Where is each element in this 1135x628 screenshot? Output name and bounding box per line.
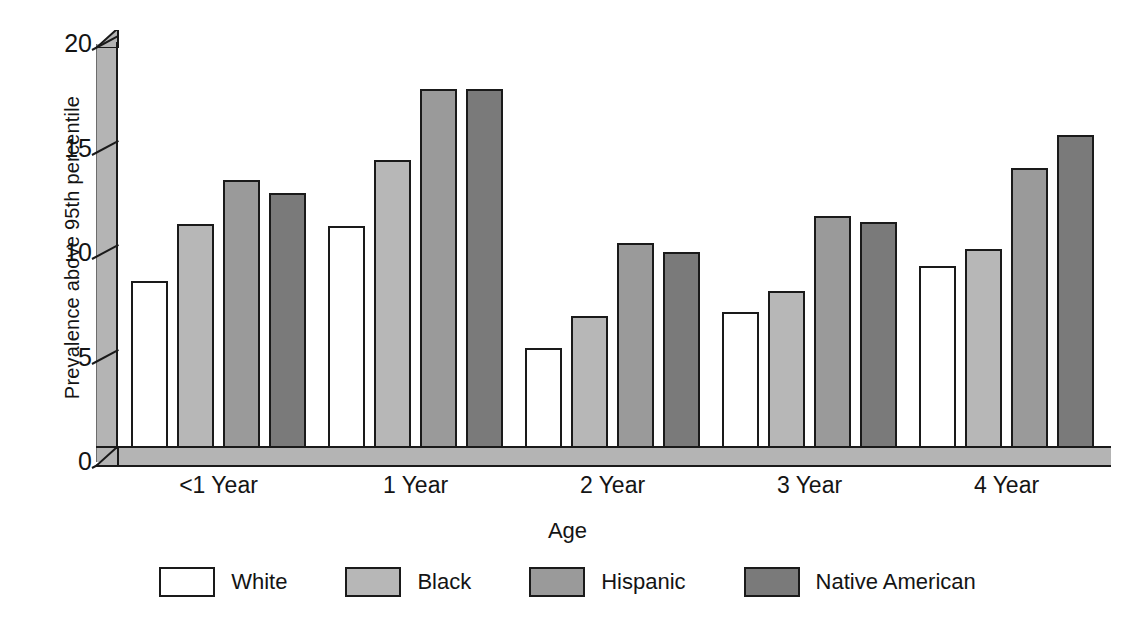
legend-label-hispanic: Hispanic <box>601 569 685 595</box>
y-axis-tick-10: 10 <box>46 240 92 265</box>
legend-item-black[interactable]: Black <box>345 567 471 597</box>
bar-black-4year <box>965 249 1002 448</box>
bar-native-american-4year <box>1057 135 1094 449</box>
bar-black-3year <box>768 291 805 448</box>
x-axis-title: Age <box>0 518 1135 544</box>
legend-label-white: White <box>231 569 287 595</box>
bar-white-1year <box>328 226 365 448</box>
bar-black-1year <box>374 160 411 448</box>
bar-hispanic-3year <box>814 216 851 448</box>
floor-bottom-edge <box>116 465 1111 467</box>
floor-corner-shape <box>96 446 120 468</box>
floor-face <box>116 448 1111 466</box>
x-axis-tick-4year: 4 Year <box>908 472 1105 499</box>
legend-swatch-hispanic <box>529 567 585 597</box>
legend-swatch-black <box>345 567 401 597</box>
bar-chart-figure: Prevalence above 95th percentile 0510152… <box>0 0 1135 628</box>
bar-hispanic-1year <box>420 89 457 448</box>
legend-item-hispanic[interactable]: Hispanic <box>529 567 685 597</box>
chart-legend: WhiteBlackHispanicNative American <box>0 560 1135 604</box>
bar-hispanic-4year <box>1011 168 1048 448</box>
legend-item-white[interactable]: White <box>159 567 287 597</box>
bar-hispanic-1year <box>223 180 260 448</box>
y-axis-tick-0: 0 <box>46 449 92 474</box>
legend-swatch-white <box>159 567 215 597</box>
legend-item-native-american[interactable]: Native American <box>744 567 976 597</box>
bar-native-american-1year <box>466 89 503 448</box>
y-axis-tick-20: 20 <box>46 31 92 56</box>
x-axis-tick-3year: 3 Year <box>711 472 908 499</box>
bar-white-1year <box>131 281 168 448</box>
legend-swatch-native-american <box>744 567 800 597</box>
legend-label-black: Black <box>417 569 471 595</box>
bar-black-1year <box>177 224 214 448</box>
bar-white-4year <box>919 266 956 448</box>
bar-white-3year <box>722 312 759 448</box>
bar-black-2year <box>571 316 608 448</box>
bar-native-american-3year <box>860 222 897 448</box>
plot-area <box>96 30 1111 466</box>
y-axis-tick-5: 5 <box>46 345 92 370</box>
x-axis-tick-labels: <1 Year1 Year2 Year3 Year4 Year <box>96 472 1111 506</box>
bar-hispanic-2year <box>617 243 654 448</box>
y-axis-wall-left-edge <box>96 44 97 462</box>
x-axis-tick-1year: <1 Year <box>120 472 317 499</box>
y-axis-tick-15: 15 <box>46 136 92 161</box>
x-axis-tick-1year: 1 Year <box>317 472 514 499</box>
floor-left-corner <box>96 446 120 468</box>
bar-native-american-2year <box>663 252 700 448</box>
bar-white-2year <box>525 348 562 448</box>
y-axis-line <box>116 42 118 462</box>
legend-label-native-american: Native American <box>816 569 976 595</box>
bar-native-american-1year <box>269 193 306 448</box>
x-axis-tick-2year: 2 Year <box>514 472 711 499</box>
